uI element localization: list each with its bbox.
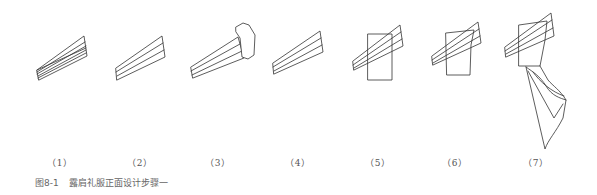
step-7-drawing	[505, 13, 566, 149]
step-label-5: （5）	[365, 156, 392, 169]
step-label-3: （3）	[205, 156, 232, 169]
step-label-2: （2）	[127, 156, 154, 169]
step-label-1: （1）	[47, 156, 74, 169]
figure-caption: 图8-1露肩礼服正面设计步骤一	[35, 176, 168, 189]
step-6-drawing	[432, 22, 481, 75]
step-3-drawing	[191, 23, 255, 78]
step-2-drawing	[116, 36, 165, 80]
caption-text: 露肩礼服正面设计步骤一	[69, 178, 168, 188]
step-5-drawing	[353, 25, 403, 80]
step-label-6: （6）	[442, 156, 469, 169]
step-4-drawing	[273, 31, 323, 74]
step-label-4: （4）	[285, 156, 312, 169]
step-label-7: （7）	[523, 156, 550, 169]
step-1-drawing	[37, 36, 87, 80]
caption-number: 图8-1	[35, 178, 59, 188]
